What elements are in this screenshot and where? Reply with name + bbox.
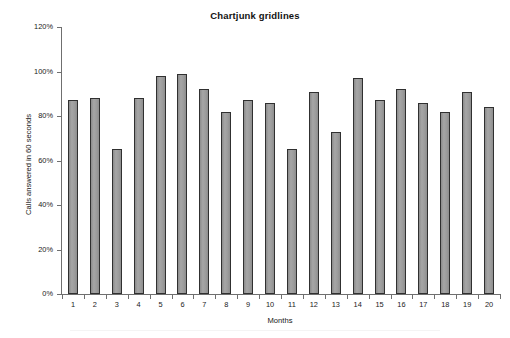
x-tick-label: 10: [259, 300, 281, 309]
y-tick-label: 0%: [42, 289, 53, 298]
x-tick-mark: [106, 295, 107, 299]
x-axis-title: Months: [60, 316, 500, 325]
x-tick-mark: [150, 295, 151, 299]
bar: [243, 100, 253, 294]
x-tick-label: 16: [391, 300, 413, 309]
bar: [134, 98, 144, 294]
bar: [440, 112, 450, 294]
scan-artifact: [70, 330, 440, 331]
y-tick-mark: [57, 116, 61, 117]
bar: [484, 107, 494, 294]
y-tick-label: 100%: [34, 67, 53, 76]
x-tick-mark: [84, 295, 85, 299]
y-axis-title: Calls answered in 60 seconds: [24, 65, 33, 265]
x-tick-mark: [128, 295, 129, 299]
y-tick-label: 60%: [38, 156, 53, 165]
x-tick-mark: [325, 295, 326, 299]
x-tick-mark: [62, 295, 63, 299]
x-tick-mark: [347, 295, 348, 299]
x-tick-mark: [391, 295, 392, 299]
x-tick-label: 6: [172, 300, 194, 309]
x-tick-label: 12: [303, 300, 325, 309]
x-tick-mark: [456, 295, 457, 299]
x-tick-label: 1: [62, 300, 84, 309]
y-tick-label: 80%: [38, 111, 53, 120]
x-tick-mark: [303, 295, 304, 299]
x-tick-label: 19: [456, 300, 478, 309]
bar: [462, 92, 472, 294]
bar: [287, 149, 297, 294]
bar: [331, 132, 341, 294]
bar: [112, 149, 122, 294]
bar: [221, 112, 231, 294]
y-tick-label: 40%: [38, 200, 53, 209]
chart-title: Chartjunk gridlines: [0, 10, 510, 21]
x-tick-mark: [434, 295, 435, 299]
y-tick-mark: [57, 72, 61, 73]
bar: [396, 89, 406, 294]
y-tick-mark: [57, 294, 61, 295]
bar: [418, 103, 428, 294]
bar: [68, 100, 78, 294]
x-tick-mark: [172, 295, 173, 299]
x-tick-mark: [215, 295, 216, 299]
y-tick-mark: [57, 161, 61, 162]
bar: [90, 98, 100, 294]
x-tick-label: 4: [128, 300, 150, 309]
x-tick-label: 8: [215, 300, 237, 309]
bar: [156, 76, 166, 294]
x-tick-label: 17: [412, 300, 434, 309]
x-tick-label: 9: [237, 300, 259, 309]
x-tick-label: 5: [150, 300, 172, 309]
bar: [375, 100, 385, 294]
x-tick-label: 11: [281, 300, 303, 309]
y-tick-label: 20%: [38, 245, 53, 254]
x-tick-label: 15: [369, 300, 391, 309]
x-tick-mark: [281, 295, 282, 299]
bar: [353, 78, 363, 294]
y-tick-mark: [57, 205, 61, 206]
x-tick-label: 18: [434, 300, 456, 309]
y-tick-mark: [57, 27, 61, 28]
bar-chart: Chartjunk gridlines Calls answered in 60…: [0, 0, 510, 338]
x-tick-mark: [369, 295, 370, 299]
y-tick-label: 120%: [34, 22, 53, 31]
x-tick-mark: [193, 295, 194, 299]
x-tick-mark: [237, 295, 238, 299]
bar: [177, 74, 187, 294]
x-tick-mark: [412, 295, 413, 299]
x-tick-label: 14: [347, 300, 369, 309]
x-tick-label: 20: [478, 300, 500, 309]
bar: [199, 89, 209, 294]
x-tick-label: 3: [106, 300, 128, 309]
bar: [265, 103, 275, 294]
bar: [309, 92, 319, 294]
x-tick-label: 2: [84, 300, 106, 309]
x-tick-mark: [500, 295, 501, 299]
x-tick-label: 13: [325, 300, 347, 309]
x-tick-label: 7: [193, 300, 215, 309]
plot-area: [62, 27, 500, 294]
x-tick-mark: [478, 295, 479, 299]
y-tick-mark: [57, 250, 61, 251]
x-tick-mark: [259, 295, 260, 299]
